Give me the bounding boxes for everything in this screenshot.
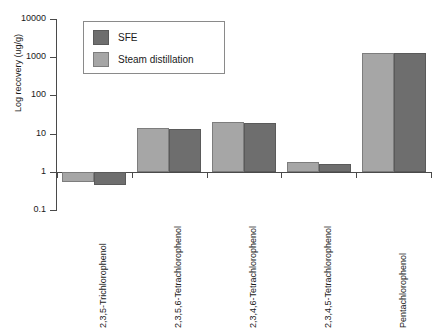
log-recovery-bar-chart: Log recovery (ug/g) 1000010001001010.1 2…	[0, 0, 434, 332]
x-axis-category-label: 2,3,5,6-Tetrachlorophenol	[173, 226, 183, 328]
y-axis-tick	[50, 134, 57, 135]
bar-steam-distillation	[137, 128, 169, 172]
legend-item-sfe: SFE	[93, 30, 137, 45]
legend-swatch-sfe-icon	[93, 30, 109, 45]
bar-steam-distillation	[362, 53, 394, 172]
x-axis-tick	[132, 172, 133, 178]
bar-sfe	[94, 172, 126, 185]
bar-steam-distillation	[62, 172, 94, 182]
y-axis-tick-label: 100	[31, 90, 46, 99]
y-axis-tick-label: 10000	[21, 14, 46, 23]
bar-sfe	[319, 164, 351, 172]
y-axis-tick	[50, 57, 57, 58]
x-axis-tick	[281, 172, 282, 178]
legend: SFE Steam distillation	[83, 21, 225, 74]
x-axis-tick	[356, 172, 357, 178]
y-axis-tick	[50, 210, 57, 211]
bar-sfe	[244, 123, 276, 172]
legend-swatch-steam-distillation-icon	[93, 52, 109, 67]
y-axis-tick	[50, 95, 57, 96]
y-axis-title: Log recovery (ug/g)	[13, 3, 23, 143]
x-axis-category-label: Pentachlorophenol	[398, 253, 408, 328]
y-axis-tick-label: 1000	[26, 52, 46, 61]
x-axis-tick	[57, 172, 58, 178]
bar-steam-distillation	[212, 122, 244, 172]
legend-item-steam-distillation: Steam distillation	[93, 52, 194, 67]
legend-label-sfe: SFE	[118, 32, 137, 43]
x-axis-category-label: 2,3,4,5-Tetrachlorophenol	[323, 226, 333, 328]
y-axis-tick	[50, 172, 57, 173]
x-axis-tick	[207, 172, 208, 178]
bar-steam-distillation	[287, 162, 319, 172]
bar-sfe	[169, 129, 201, 172]
y-axis-tick-label: 1	[41, 167, 46, 176]
bar-sfe	[394, 53, 426, 171]
y-axis-tick-label: 10	[36, 129, 46, 138]
y-axis-tick	[50, 19, 57, 20]
x-axis-tick	[431, 172, 432, 178]
legend-label-steam-distillation: Steam distillation	[118, 54, 194, 65]
y-axis-tick-label: 0.1	[33, 205, 46, 214]
x-axis-category-label: 2,3,4,6-Tetrachlorophenol	[248, 226, 258, 328]
x-axis-category-label: 2,3,5-Trichlorophenol	[98, 243, 108, 328]
y-axis-line	[56, 19, 57, 210]
